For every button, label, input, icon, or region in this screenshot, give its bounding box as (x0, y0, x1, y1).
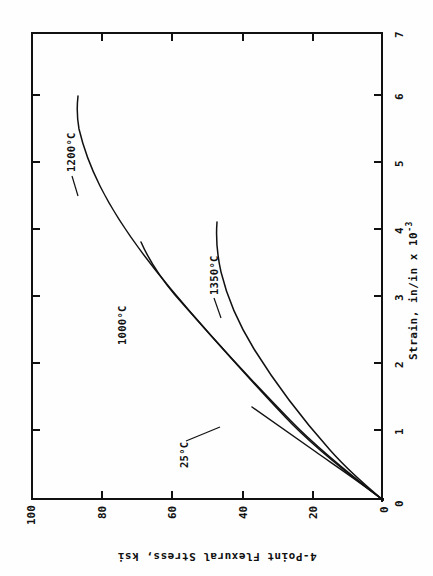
figure-canvas: 7 6 5 4 3 2 1 0 100 80 60 40 20 0 Strain… (0, 0, 433, 576)
stress-ticklabel-100: 100 (25, 505, 38, 525)
leader-1200c (72, 176, 78, 196)
strain-ticklabel-7: 7 (393, 31, 406, 38)
stress-ticklabel-60: 60 (166, 506, 179, 519)
stress-ticklabel-80: 80 (96, 506, 109, 519)
strain-ticklabel-5: 5 (393, 160, 406, 167)
strain-axis-title-text: Strain, in/in x 10 (407, 232, 420, 360)
curve-label-1350c: 1350°C (208, 255, 220, 295)
stress-ticklabel-0: 0 (378, 506, 391, 513)
curve-label-25c: 25°C (178, 442, 190, 469)
stress-ticklabel-40: 40 (237, 506, 250, 519)
strain-axis-title-exponent: -3 (405, 221, 414, 232)
strain-ticklabel-0: 0 (393, 500, 406, 507)
strain-ticklabel-6: 6 (393, 93, 406, 100)
strain-ticklabel-1: 1 (393, 428, 406, 435)
leader-1350c (214, 298, 221, 318)
curve-label-1000c: 1000°C (116, 305, 128, 345)
strain-axis-title: Strain, in/in x 10-3 (405, 221, 420, 360)
curve-label-1200c: 1200°C (65, 132, 77, 172)
stress-axis-title: 4-Point Flexural Stress, ksi (97, 550, 337, 563)
strain-ticklabel-2: 2 (393, 361, 406, 368)
stress-ticklabel-20: 20 (307, 506, 320, 519)
leader-25c (186, 427, 220, 441)
